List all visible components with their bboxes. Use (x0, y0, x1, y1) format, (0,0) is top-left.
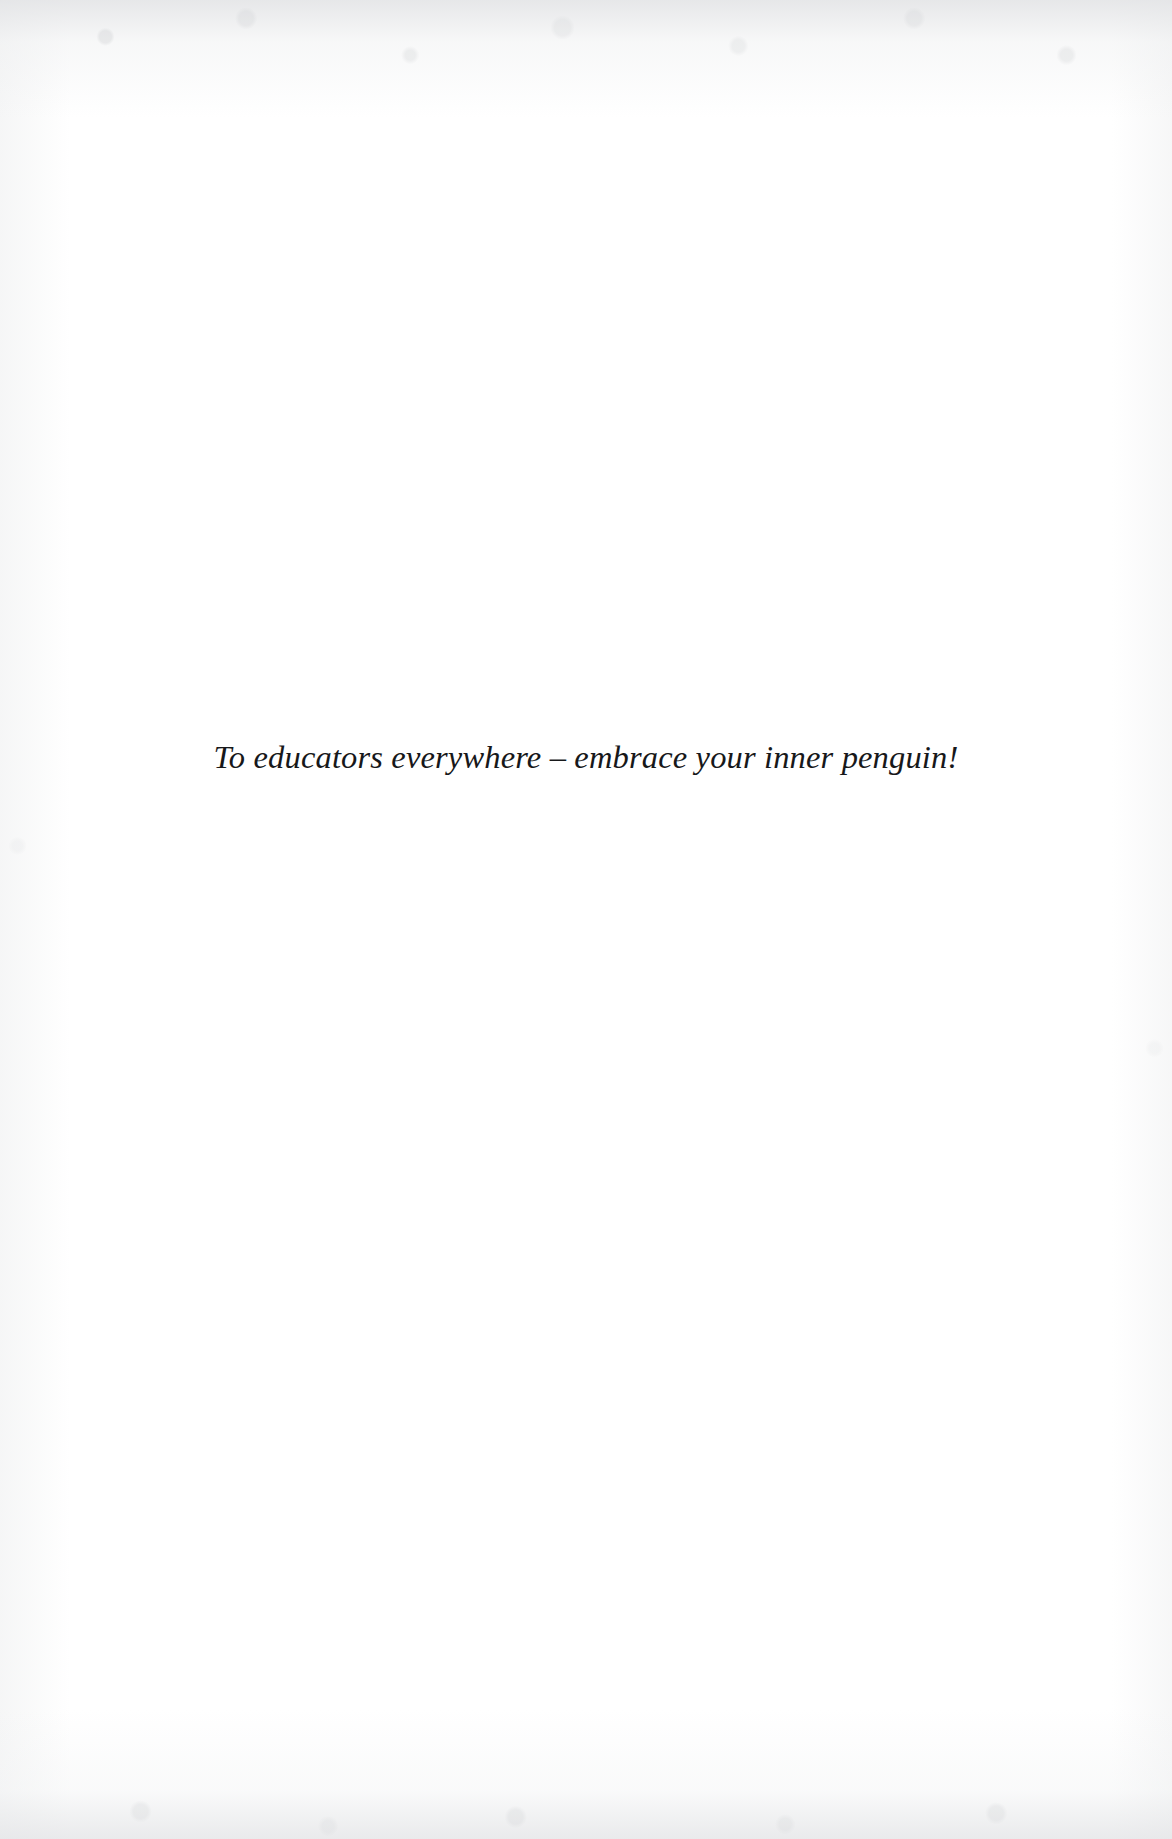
paper-scan-grain-overlay (0, 0, 1172, 1839)
dedication-block: To educators everywhere – embrace your i… (0, 703, 1172, 810)
dedication-page: To educators everywhere – embrace your i… (0, 0, 1172, 1839)
dedication-text: To educators everywhere – embrace your i… (214, 736, 959, 778)
